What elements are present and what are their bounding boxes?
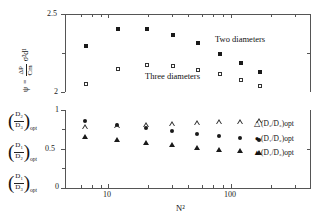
ratio-opt-subscript: opt — [30, 125, 37, 131]
bottom-d1d3-point — [143, 140, 149, 145]
x-axis-tick — [213, 185, 214, 188]
psi-fraction-denominator: Cm — [27, 64, 35, 76]
top-panel-ytick-label-2_5: 2.5 — [47, 10, 57, 18]
top-axis-tick — [223, 14, 224, 17]
bottom-panel-x-axis — [65, 188, 311, 189]
top-three-diameters-point — [218, 72, 222, 76]
ratio-opt-subscript: opt — [30, 156, 37, 162]
psi-tail-term: σ²d¹ — [21, 48, 30, 61]
top-panel-ytick-label-2: 2 — [54, 88, 58, 96]
bottom-panel-right-ytick — [307, 149, 310, 150]
bottom-panel-ytick-label-1: 1 — [55, 106, 59, 114]
legend-label-d1-d2: (D₁/D₂)opt — [261, 134, 294, 143]
x-axis-tick — [188, 185, 189, 188]
ratio-fraction: D1 D3 — [14, 173, 23, 194]
bottom-d2d3-point — [169, 121, 175, 126]
x-axis-tick-major-100 — [231, 184, 232, 188]
bottom-d1d2-point — [83, 119, 87, 123]
top-two-diameters-point — [171, 33, 175, 37]
bottom-d2d3-point — [82, 124, 88, 129]
bottom-d1d2-point — [144, 126, 148, 130]
psi-symbol: ψ — [21, 87, 30, 92]
bottom-d1d3-point — [194, 145, 200, 150]
top-axis-tick — [231, 14, 232, 18]
psi-fraction: ΔP Cm — [18, 64, 34, 76]
top-axis-tick — [295, 14, 296, 17]
ratio-numerator-sub: 1 — [20, 176, 22, 181]
top-axis-tick — [172, 14, 173, 17]
top-panel-y-axis-label: ψ = ΔP Cm σ²d¹ — [18, 48, 34, 92]
x-axis-tick — [271, 185, 272, 188]
top-panel-ytick-mid — [62, 53, 65, 54]
ratio-fraction: D2 D3 — [14, 111, 23, 132]
top-axis-tick — [92, 14, 93, 17]
x-axis-tick-label-10: 10 — [103, 191, 111, 199]
bottom-panel-ytick-1 — [61, 110, 65, 111]
top-two-diameters-point — [218, 52, 222, 56]
bottom-panel: ( D2 D3 ) opt ( D1 D2 ) opt ( D1 D3 ) op — [0, 105, 323, 224]
bottom-panel-ytick-label-0: 0 — [55, 183, 59, 191]
top-panel-right-ytick-mid — [307, 53, 310, 54]
top-three-diameters-point — [145, 63, 149, 67]
ratio-denominator-sub: 2 — [20, 156, 22, 161]
ratio-numerator-sub: 2 — [20, 114, 22, 119]
ratio-denominator: D2 — [14, 153, 23, 163]
ratio-denominator-sub: 3 — [20, 187, 22, 192]
top-three-diameters-point — [171, 64, 175, 68]
x-axis-tick-label-100: 100 — [224, 191, 236, 199]
bottom-d1d2-point — [170, 129, 174, 133]
ratio-numerator-sub: 1 — [20, 145, 22, 150]
bottom-panel-right-axis — [310, 110, 311, 188]
x-axis-tick — [202, 185, 203, 188]
legend-open-triangle-icon: △ — [253, 119, 261, 128]
bottom-panel-y-axis — [65, 110, 66, 188]
top-axis-tick — [271, 14, 272, 17]
legend-filled-circle-icon: ● — [253, 134, 261, 143]
ratio-denominator-sub: 3 — [20, 125, 22, 130]
top-axis-tick — [188, 14, 189, 17]
ratio-label-d2-d3: ( D2 D3 ) opt — [8, 111, 37, 132]
ratio-denominator: D3 — [14, 184, 23, 194]
x-axis-tick — [148, 185, 149, 188]
top-axis-tick — [108, 14, 109, 18]
bottom-d1d2-point — [238, 136, 242, 140]
bottom-d1d2-point — [115, 123, 119, 127]
open-triangle-cutout — [217, 121, 221, 124]
legend-label-d2-d3: (D₂/D₃)opt — [261, 119, 294, 128]
top-panel-ytick-2_5 — [61, 14, 65, 15]
top-panel: ψ = ΔP Cm σ²d¹ 2.5 2 — [0, 0, 323, 105]
top-panel-right-axis — [310, 14, 311, 92]
bottom-d1d2-point — [195, 132, 199, 136]
x-axis-tick — [295, 185, 296, 188]
bottom-panel-ytick-0 — [61, 188, 65, 189]
bottom-d2d3-point — [216, 119, 222, 124]
top-three-diameters-point — [84, 82, 88, 86]
x-axis-tick — [223, 185, 224, 188]
bottom-d1d3-point — [82, 134, 88, 139]
x-axis-tick — [101, 185, 102, 188]
ratio-label-d1-d3: ( D1 D3 ) opt — [8, 173, 37, 194]
top-axis-tick — [81, 14, 82, 17]
top-two-diameters-point — [196, 41, 200, 45]
annotation-two-diameters: Two diameters — [215, 35, 265, 44]
bottom-d1d3-point — [114, 137, 120, 142]
legend-item-d1-d2: ● (D₁/D₂)opt — [253, 134, 294, 143]
x-axis-tick — [172, 185, 173, 188]
bottom-d2d3-point — [237, 119, 243, 124]
bottom-panel-ytick-label-0_5: 0.5 — [45, 145, 55, 153]
top-two-diameters-point — [258, 70, 262, 74]
legend-item-d1-d3: ▲ (D₁/D₃)opt — [253, 148, 294, 157]
x-axis-tick — [92, 185, 93, 188]
annotation-three-diameters: Three diameters — [145, 72, 200, 81]
figure-root: ψ = ΔP Cm σ²d¹ 2.5 2 — [0, 0, 323, 224]
top-two-diameters-point — [84, 44, 88, 48]
top-panel-ytick-2 — [61, 92, 65, 93]
ratio-opt-subscript: opt — [30, 187, 37, 193]
legend-label-d1-d3: (D₁/D₃)opt — [261, 148, 294, 157]
open-triangle-cutout — [170, 123, 174, 126]
open-triangle-cutout — [83, 126, 87, 129]
bottom-panel-ytick-0_5 — [61, 149, 65, 150]
x-axis-label: N² — [176, 203, 185, 213]
bottom-d1d2-point — [217, 134, 221, 138]
bottom-d1d3-point — [169, 142, 175, 147]
